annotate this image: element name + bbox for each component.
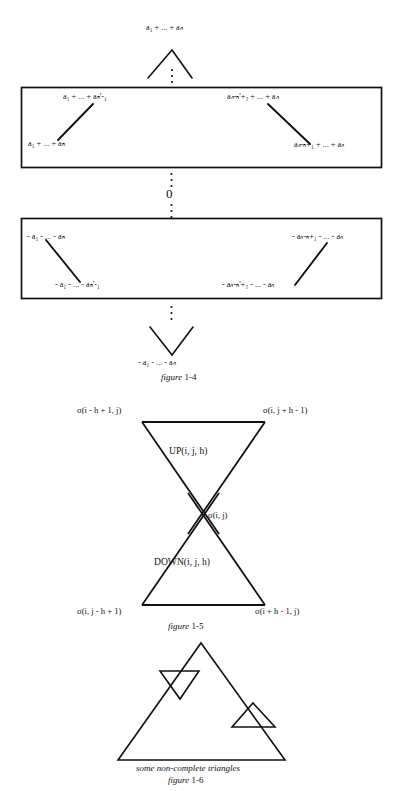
large-triangle [118,643,285,760]
figure-1-6-caption: figure 1-6 [168,775,203,785]
figure-page: a₁ + ... + aₙ a₁ + ... + aₕ'-₁ a₁ + ... … [0,0,403,791]
figure-1-6-caption-italic: figure [168,775,189,785]
figure-1-6-caption-number: 1-6 [191,775,203,785]
small-downward-triangle [160,671,199,699]
figure-1-6-graphics [0,0,403,791]
figure-1-6-description: some non-complete triangles [136,763,240,773]
